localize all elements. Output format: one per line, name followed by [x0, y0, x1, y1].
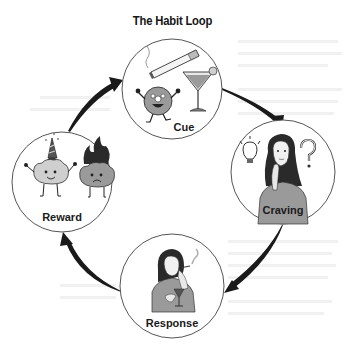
- arrow-response-to-reward: [60, 232, 121, 292]
- stage-label-cue: Cue: [174, 121, 195, 133]
- stage-response: Response: [120, 234, 224, 338]
- stage-label-craving: Craving: [263, 204, 304, 216]
- stage-cue: Cue: [122, 39, 222, 139]
- stage-craving: Craving: [231, 120, 335, 224]
- stage-reward: Reward: [12, 132, 115, 232]
- arrow-craving-to-response: [224, 225, 283, 293]
- stage-label-reward: Reward: [42, 211, 82, 223]
- stage-label-response: Response: [146, 317, 199, 329]
- arrow-reward-to-cue: [68, 77, 123, 132]
- habit-loop-diagram: Cue Craving: [0, 0, 345, 354]
